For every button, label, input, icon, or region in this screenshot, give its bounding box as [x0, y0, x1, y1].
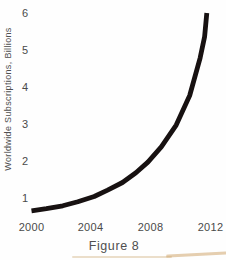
subscriptions-curve — [32, 13, 207, 211]
scan-artifact — [72, 256, 172, 258]
x-tick-label-2012: 2012 — [198, 221, 224, 233]
figure-caption: Figure 8 — [89, 239, 140, 253]
figure-8-chart: Worldwide Subscriptions, Billions 6 5 4 … — [0, 0, 226, 260]
x-tick-label-2004: 2004 — [78, 221, 104, 233]
x-tick-label-2000: 2000 — [19, 221, 45, 233]
x-tick-label-2008: 2008 — [138, 221, 164, 233]
